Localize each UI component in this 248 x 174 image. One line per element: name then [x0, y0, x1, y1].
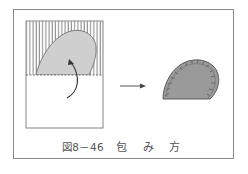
caption-number: 図8－46 [62, 141, 105, 153]
left-panel [26, 21, 103, 128]
right-arrow-icon [120, 84, 146, 89]
right-panel [163, 60, 219, 99]
figure-caption: 図8－46 包 み 方 [0, 138, 248, 154]
caption-title: 包 み 方 [116, 141, 186, 154]
